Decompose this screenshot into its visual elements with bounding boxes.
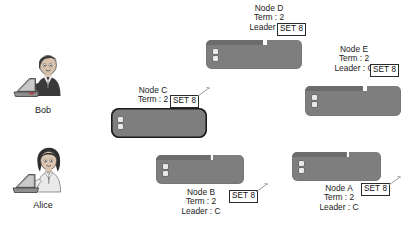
node-a-cap: [349, 152, 381, 157]
node-b-set-chip[interactable]: SET 8: [229, 190, 258, 203]
bob-avatar: [8, 52, 78, 104]
led-indicator: [312, 95, 317, 100]
person-name-bob: Bob: [8, 105, 78, 115]
led-indicator: [213, 56, 218, 61]
node-a-leader: Leader : C: [300, 203, 378, 212]
person-name-alice: Alice: [8, 200, 78, 210]
led-indicator: [163, 164, 168, 169]
alice-avatar: [8, 147, 78, 199]
led-indicator: [118, 124, 123, 129]
node-c-server[interactable]: [111, 108, 207, 138]
person-at-laptop-icon: [8, 147, 78, 199]
node-e-server[interactable]: [305, 86, 401, 116]
person-at-laptop-icon: [8, 52, 78, 104]
node-c-send-flick-icon: [197, 87, 208, 95]
node-d-top-strip: [206, 40, 263, 45]
node-a-top-strip: [292, 152, 346, 157]
node-b-cap: [213, 155, 244, 160]
led-indicator: [163, 171, 168, 176]
diagram-canvas: Bob: [0, 0, 418, 227]
node-b-leader: Leader : C: [162, 207, 240, 216]
led-indicator: [312, 102, 317, 107]
node-e-set-chip[interactable]: SET 8: [370, 64, 399, 77]
node-d-leds: [213, 49, 218, 63]
node-b-server[interactable]: [156, 155, 244, 184]
led-indicator: [213, 49, 218, 54]
led-indicator: [299, 161, 304, 166]
node-a-set-chip[interactable]: SET 8: [361, 183, 390, 196]
node-c-leds: [118, 117, 123, 131]
node-d-server[interactable]: [206, 40, 302, 69]
node-d-set-chip[interactable]: SET 8: [277, 23, 306, 36]
led-indicator: [118, 117, 123, 122]
node-c-body: [111, 108, 207, 138]
node-e-cap: [367, 86, 401, 91]
led-indicator: [299, 168, 304, 173]
person-alice: Alice: [8, 147, 78, 210]
node-b-leds: [163, 164, 168, 178]
node-a-leds: [299, 161, 304, 175]
node-d-cap: [267, 40, 302, 45]
person-bob: Bob: [8, 52, 78, 115]
node-c-set-chip[interactable]: SET 8: [170, 95, 199, 108]
node-e-top-strip: [305, 86, 363, 91]
node-b-top-strip: [156, 155, 210, 160]
node-e-leds: [312, 95, 317, 109]
node-a-server[interactable]: [292, 152, 381, 181]
